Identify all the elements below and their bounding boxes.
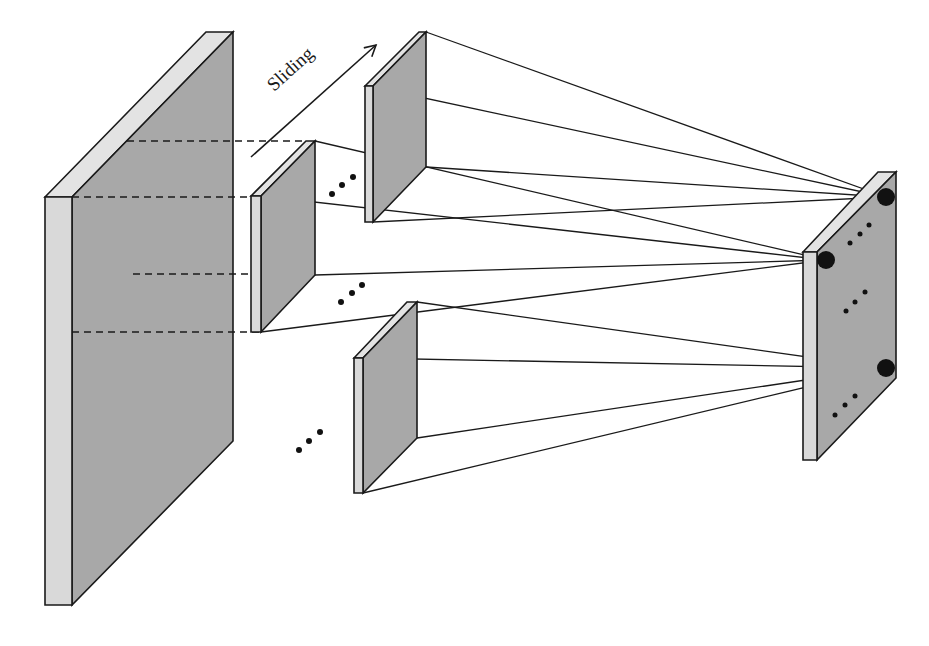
output-map	[803, 172, 896, 460]
window-top	[365, 32, 426, 222]
ellipsis-icon	[296, 429, 323, 453]
output-node-1	[877, 188, 895, 206]
output-node-2	[817, 251, 835, 269]
input-volume-front-edge	[45, 197, 72, 605]
connections-top	[373, 32, 886, 222]
ellipsis-icon	[329, 174, 356, 197]
window-bottom	[354, 302, 417, 493]
ellipsis-icon	[338, 282, 365, 305]
input-volume-face	[72, 32, 233, 605]
diagram-canvas: Sliding	[0, 0, 929, 646]
sliding-arrow: Sliding	[251, 42, 376, 157]
sliding-label: Sliding	[263, 42, 318, 95]
output-node-3	[877, 359, 895, 377]
input-volume	[45, 32, 233, 605]
window-middle	[251, 141, 315, 332]
connections-middle	[261, 141, 826, 332]
